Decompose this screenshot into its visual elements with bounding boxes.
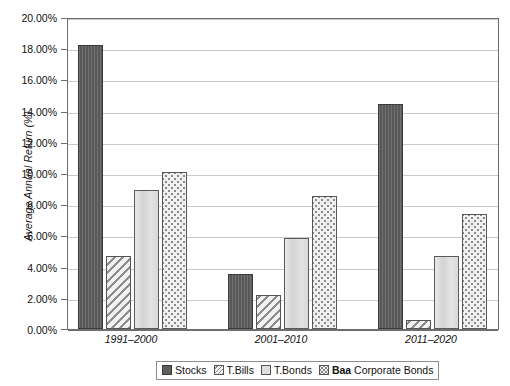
bar-stocks-2011–2020 [378, 104, 403, 329]
plot-area [67, 18, 499, 330]
legend-entry-stocks[interactable]: Stocks [162, 364, 207, 376]
bar-tbills-2011–2020 [406, 320, 431, 329]
x-axis-tick-label: 2001–2010 [255, 333, 308, 345]
y-axis-tick-label: 20.00% [21, 12, 57, 24]
legend-label: Stocks [175, 364, 207, 376]
y-axis-tick-label: 16.00% [21, 74, 57, 86]
bar-baa-2011–2020 [462, 214, 487, 329]
bar-tbonds-1991–2000 [134, 190, 159, 329]
legend-label: T.Bonds [274, 364, 312, 376]
y-axis-tick-label: 14.00% [21, 106, 57, 118]
y-axis-tick-label: 4.00% [27, 262, 57, 274]
bars-layer [68, 19, 498, 329]
x-axis-tick-label: 1991–2000 [105, 333, 158, 345]
y-axis-tick-label: 8.00% [27, 199, 57, 211]
y-axis-tick-label: 0.00% [27, 324, 57, 336]
bar-stocks-1991–2000 [78, 45, 103, 329]
legend-label: T.Bills [227, 364, 254, 376]
bar-stocks-2001–2010 [228, 274, 253, 329]
bar-tbills-1991–2000 [106, 256, 131, 329]
y-axis-tick-label: 12.00% [21, 137, 57, 149]
bar-chart: Average Annual Return (%) 0.00%2.00%4.00… [0, 0, 510, 386]
y-axis-tick-label: 2.00% [27, 293, 57, 305]
legend-swatch-icon [214, 365, 224, 375]
legend-swatch-icon [319, 365, 329, 375]
legend-entry-tbills[interactable]: T.Bills [214, 364, 254, 376]
bar-tbonds-2011–2020 [434, 256, 459, 329]
y-axis-tick-label: 18.00% [21, 43, 57, 55]
bar-tbills-2001–2010 [256, 295, 281, 329]
bar-baa-1991–2000 [162, 172, 187, 329]
x-axis-tick-label: 2011–2020 [405, 333, 457, 345]
y-axis-tick-label: 6.00% [27, 230, 57, 242]
legend-swatch-icon [162, 365, 172, 375]
legend-entry-baa[interactable]: Baa Corporate Bonds [319, 364, 434, 376]
gridline [68, 330, 498, 331]
bar-tbonds-2001–2010 [284, 238, 309, 329]
x-axis-tick-labels: 1991–20002001–20102011–2020 [67, 333, 499, 353]
legend-entry-tbonds[interactable]: T.Bonds [261, 364, 312, 376]
y-axis-tick-labels: 0.00%2.00%4.00%6.00%8.00%10.00%12.00%14.… [0, 18, 67, 330]
legend-swatch-icon [261, 365, 271, 375]
legend-label-bold-part: Baa [332, 364, 351, 376]
bar-baa-2001–2010 [312, 196, 337, 329]
chart-legend: StocksT.BillsT.BondsBaa Corporate Bonds [156, 361, 439, 380]
y-axis-tick-label: 10.00% [21, 168, 57, 180]
legend-label: Baa Corporate Bonds [332, 364, 434, 376]
